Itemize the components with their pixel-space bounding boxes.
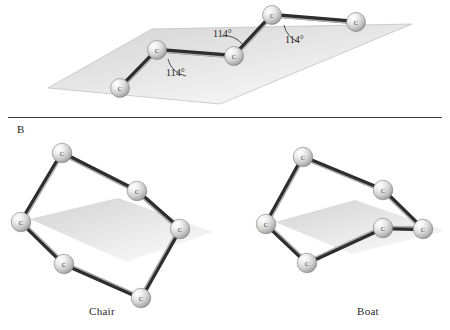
boat-conformation-diagram: CCCCCC xyxy=(0,0,450,330)
boat-caption: Boat xyxy=(357,305,379,317)
carbon-atom: C xyxy=(293,147,313,167)
atom-label: C xyxy=(381,225,385,232)
chair-caption: Chair xyxy=(89,305,115,317)
carbon-atom: C xyxy=(256,214,276,234)
carbon-atom: C xyxy=(373,218,393,238)
carbon-atom: C xyxy=(413,219,433,239)
atom-label: C xyxy=(381,187,385,194)
atom-label: C xyxy=(305,260,309,267)
atom-label: C xyxy=(264,221,268,228)
carbon-atom: C xyxy=(297,253,317,273)
cyclohexane-conformations-figure: CCCCC114°114°114° B CCCCCC CCCCCC Chair … xyxy=(0,0,450,330)
carbon-atom: C xyxy=(373,180,393,200)
atom-label: C xyxy=(301,154,305,161)
atom-label: C xyxy=(421,226,425,233)
